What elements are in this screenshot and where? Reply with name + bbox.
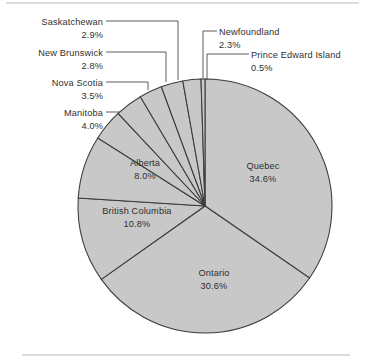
label-quebec-name: Quebec xyxy=(246,161,279,171)
label-alberta-name: Alberta xyxy=(130,158,161,168)
label-british-columbia-value: 10.8% xyxy=(124,219,151,229)
label-new-brunswick-name: New Brunswick xyxy=(38,48,103,58)
label-ontario-value: 30.6% xyxy=(201,281,228,291)
leader-line-newfoundland xyxy=(203,31,217,79)
label-new-brunswick-value: 2.8% xyxy=(81,61,103,71)
label-nova-scotia-value: 3.5% xyxy=(81,91,103,101)
label-prince-edward-island-name: Prince Edward Island xyxy=(251,50,341,60)
leader-line-new-brunswick xyxy=(106,52,166,82)
label-saskatchewan-value: 2.9% xyxy=(81,30,103,40)
leader-line-nova-scotia xyxy=(106,82,148,90)
leader-line-saskatchewan xyxy=(106,21,178,80)
label-saskatchewan-name: Saskatchewan xyxy=(41,17,103,27)
label-british-columbia-name: British Columbia xyxy=(102,206,172,216)
pie-chart-svg: Saskatchewan 2.9% New Brunswick 2.8% Nov… xyxy=(0,0,365,364)
label-newfoundland-value: 2.3% xyxy=(219,40,241,50)
label-alberta-value: 8.0% xyxy=(134,171,156,181)
leader-line-prince-edward-island xyxy=(207,54,249,79)
label-quebec-value: 34.6% xyxy=(250,174,277,184)
label-ontario-name: Ontario xyxy=(198,268,229,278)
label-newfoundland-name: Newfoundland xyxy=(219,27,280,37)
label-manitoba-value: 4.0% xyxy=(81,121,103,131)
label-prince-edward-island-value: 0.5% xyxy=(251,63,273,73)
pie-chart-figure: Saskatchewan 2.9% New Brunswick 2.8% Nov… xyxy=(0,0,365,364)
label-manitoba-name: Manitoba xyxy=(64,108,104,118)
label-nova-scotia-name: Nova Scotia xyxy=(52,78,104,88)
